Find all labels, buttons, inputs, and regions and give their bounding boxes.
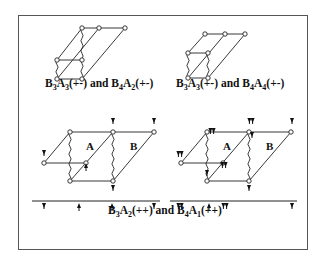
wavy-bond <box>207 53 209 78</box>
caption-top-left: B3A3(+-) and B4A2(+-) <box>45 77 153 92</box>
lattice-node <box>111 130 115 134</box>
lattice-node <box>80 26 84 30</box>
lattice-node <box>203 32 207 36</box>
wavy-bond <box>248 132 250 181</box>
lattice-node <box>179 161 183 165</box>
lattice-node <box>223 32 227 36</box>
lattice-node <box>68 130 72 134</box>
spin-arrow-icon <box>176 151 183 157</box>
spin-arrow-icon <box>250 132 254 138</box>
spin-arrow-icon <box>290 203 294 209</box>
lattice-node <box>186 51 190 55</box>
lattice-node <box>123 26 127 30</box>
lattice-node <box>152 130 156 134</box>
lattice-edge <box>57 28 99 79</box>
plaquette-label: A <box>86 140 94 152</box>
wavy-bond <box>81 28 83 79</box>
spin-arrow-icon <box>111 118 115 124</box>
spin-arrow-icon <box>247 185 251 191</box>
lattice-node <box>205 130 209 134</box>
lattice-node <box>111 179 115 183</box>
caption-top-right: B3A3(+-) and B4A4(+-) <box>176 77 284 92</box>
lattice-edge <box>82 28 125 79</box>
top-left-lattice <box>55 26 127 81</box>
lattice-node <box>247 179 251 183</box>
spin-arrow-icon <box>221 203 228 209</box>
top-right-lattice <box>186 32 247 80</box>
wavy-bond <box>187 53 189 78</box>
lattice-diagrams: ABAB <box>0 0 322 266</box>
spin-arrow-icon <box>247 118 254 124</box>
lattice-node <box>68 179 72 183</box>
lattice-node <box>42 161 46 165</box>
lattice-edge <box>188 34 205 53</box>
lattice-node <box>205 179 209 183</box>
lattice-node <box>289 130 293 134</box>
bottom-right-lattice: AB <box>170 118 297 211</box>
lattice-edge <box>181 132 207 163</box>
lattice-node <box>206 51 210 55</box>
lattice-node <box>80 58 84 62</box>
wavy-bond <box>112 132 114 181</box>
spin-arrow-icon <box>42 203 46 209</box>
spin-arrow-icon <box>208 128 215 134</box>
bottom-left-lattice: AB <box>32 118 160 211</box>
lattice-edge <box>44 132 70 163</box>
lattice-node <box>55 58 59 62</box>
spin-arrow-icon <box>77 203 81 211</box>
spin-arrow-icon <box>42 150 46 156</box>
plaquette-label: B <box>130 140 138 152</box>
lattice-edge <box>208 34 245 78</box>
spin-arrow-icon <box>111 185 115 191</box>
plaquette-label: A <box>223 140 231 152</box>
lattice-edge <box>57 28 82 60</box>
lattice-node <box>243 32 247 36</box>
spin-arrow-icon <box>290 118 294 124</box>
plaquette-label: B <box>266 140 274 152</box>
wavy-bond <box>69 132 71 181</box>
caption-bottom: B3A2(++) and B4A1(++) <box>108 204 222 219</box>
lattice-node <box>97 26 101 30</box>
spin-arrow-icon <box>152 118 156 124</box>
